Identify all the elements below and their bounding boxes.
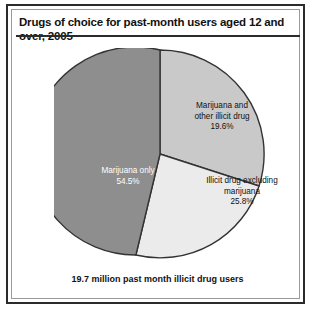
chart-figure-frame: Drugs of choice for past-month users age… bbox=[6, 4, 305, 304]
pie-label-line2: other illicit drug bbox=[174, 112, 270, 123]
chart-caption: 19.7 million past month illicit drug use… bbox=[8, 274, 307, 284]
pie-label-value: 25.8% bbox=[186, 197, 298, 208]
pie-svg bbox=[54, 48, 266, 260]
title-divider bbox=[16, 35, 300, 37]
pie-label-line1: Marijuana only bbox=[82, 166, 174, 177]
pie-label-value: 54.5% bbox=[82, 177, 174, 188]
pie-label-marijuana-only: Marijuana only 54.5% bbox=[82, 166, 174, 187]
pie-slices bbox=[54, 48, 264, 258]
pie-label-line2: marijuana bbox=[186, 187, 298, 198]
pie-label-line1: Illicit drug excluding bbox=[186, 176, 298, 187]
pie-chart: Marijuana and other illicit drug 19.6% I… bbox=[8, 38, 307, 306]
pie-label-value: 19.6% bbox=[174, 122, 270, 133]
pie-graphic: Marijuana and other illicit drug 19.6% I… bbox=[54, 48, 266, 260]
pie-label-marijuana-and-other-illicit-drug: Marijuana and other illicit drug 19.6% bbox=[174, 101, 270, 133]
pie-label-line1: Marijuana and bbox=[174, 101, 270, 112]
pie-label-illicit-drug-excluding-marijuana: Illicit drug excluding marijuana 25.8% bbox=[186, 176, 298, 208]
